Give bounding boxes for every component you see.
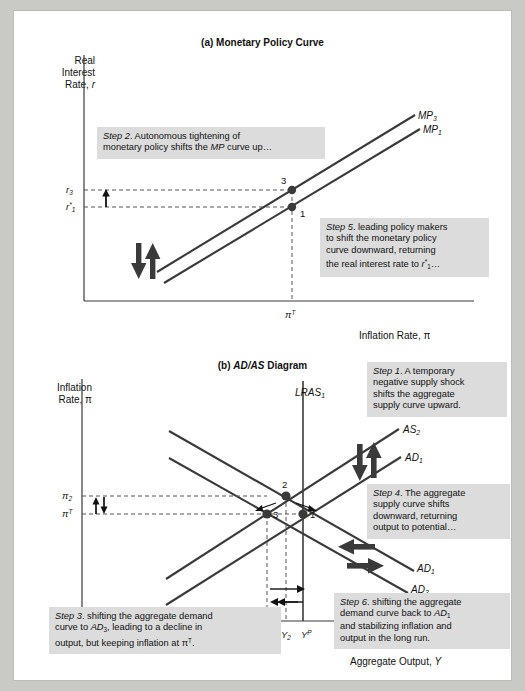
- point-3-dot-b: [262, 509, 271, 518]
- arrow-output-left-2: [277, 598, 298, 606]
- panel-b-point-label-2: 2: [282, 479, 287, 490]
- callout-step-1-line2: negative supply shock: [373, 377, 464, 387]
- callout-step-3-line2: curve to AD3, leading to a decline in: [55, 622, 202, 632]
- point-2-dot-b: [281, 491, 290, 500]
- curve-label-as2: AS2: [403, 424, 420, 436]
- callout-step-4-line4: output to potential…: [373, 522, 456, 532]
- callout-step-1-line3: shifts the aggregate: [373, 389, 455, 399]
- curve-as2: [166, 429, 399, 579]
- panel-b-x-axis-label: Aggregate Output, Y: [350, 656, 441, 668]
- callout-step-3-label: Step 3: [55, 611, 82, 621]
- callout-step-6-line3: and stabilizing inflation and: [340, 621, 452, 631]
- callout-step-1-label: Step 1: [373, 366, 400, 376]
- callout-step-6-line2: demand curve back to AD1: [340, 608, 451, 618]
- callout-step-6-line1: . shifting the aggregate: [367, 597, 462, 607]
- callout-step-3-line1: . shifting the aggregate demand: [82, 611, 213, 621]
- point-1-dot-b: [298, 509, 307, 518]
- callout-step-1-line4: supply curve upward.: [373, 400, 461, 410]
- curve-label-as1: AD1: [405, 452, 423, 464]
- panel-b-xtick-y2: Y2: [281, 629, 291, 641]
- curve-label-ad1: AD1: [417, 563, 435, 575]
- callout-step-4: Step 4. The aggregate supply curve shift…: [367, 484, 510, 539]
- callout-step-3: Step 3. shifting the aggregate demand cu…: [49, 607, 281, 654]
- arrow-pi-up: [93, 497, 100, 514]
- panel-b-point-label-1: 1: [310, 509, 315, 520]
- arrow-ad-right: [347, 558, 384, 574]
- callout-step-6: Step 6. shifting the aggregate demand cu…: [334, 593, 510, 649]
- callout-step-4-line2: supply curve shifts: [373, 499, 449, 509]
- figure-page: (a) Monetary Policy Curve Real Interest …: [14, 11, 511, 680]
- callout-step-1: Step 1. A temporary negative supply shoc…: [367, 362, 507, 417]
- curve-label-lras1: LRAS1: [295, 387, 325, 399]
- panel-b-plot: [14, 11, 511, 691]
- arrow-as-up: [366, 442, 382, 478]
- callout-step-6-line4: output in the long run.: [340, 633, 430, 643]
- callout-step-4-line1: . The aggregate: [400, 488, 465, 498]
- panel-b-ytick-pi2: π2: [62, 490, 72, 502]
- panel-b-ytick-pi-target: πT: [62, 508, 72, 519]
- panel-b-point-label-3: 3: [273, 509, 278, 520]
- callout-step-6-label: Step 6: [340, 597, 367, 607]
- callout-step-4-label: Step 4: [373, 488, 400, 498]
- arrow-output-right: [270, 585, 305, 593]
- arrow-pi-down: [101, 497, 108, 514]
- panel-b-xtick-yp: YP: [301, 629, 312, 640]
- callout-step-1-line1: . A temporary: [400, 366, 455, 376]
- callout-step-4-line3: downward, returning: [373, 511, 457, 521]
- callout-step-3-line3: output, but keeping inflation at πT.: [55, 638, 195, 648]
- arrow-ad-left: [338, 539, 375, 555]
